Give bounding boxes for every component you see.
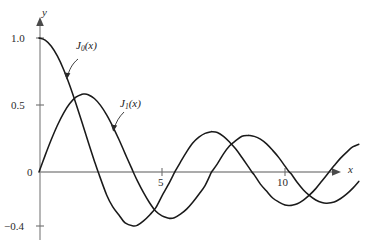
y-axis-label: y xyxy=(42,7,47,18)
x-axis-label: x xyxy=(348,164,353,175)
j0-arg: (x) xyxy=(85,39,97,51)
x-axis-arrowhead xyxy=(332,168,341,176)
y-tick-label-0.5: 0.5 xyxy=(11,100,25,111)
curve-annotation-j1: J1(x) xyxy=(120,98,141,110)
curve-j1 xyxy=(39,94,359,218)
y-tick-label-1.0: 1.0 xyxy=(11,33,25,44)
x-tick-label-10: 10 xyxy=(277,177,288,188)
curve-annotation-j0: J0(x) xyxy=(76,40,97,52)
y-axis-arrowhead xyxy=(36,17,44,26)
y-tick-label-0: 0 xyxy=(27,167,33,178)
x-tick-label-5: 5 xyxy=(158,177,164,188)
bessel-function-chart: 1.0 0.5 0 −0.4 5 10 y x J0(x) J1(x) xyxy=(0,0,370,251)
j1-arg: (x) xyxy=(129,97,141,109)
curve-j0 xyxy=(39,38,359,226)
y-tick-label-minus-0.4: −0.4 xyxy=(4,221,24,232)
plot-canvas xyxy=(0,0,370,251)
